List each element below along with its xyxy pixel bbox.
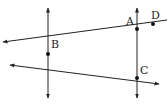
lines-layer <box>3 8 167 98</box>
line-B-A-D <box>3 20 167 42</box>
points-layer: BADC <box>46 9 160 80</box>
point-label-b: B <box>51 38 59 51</box>
diagram-svg: BADC <box>0 0 168 104</box>
point-c <box>135 76 139 80</box>
point-label-d: D <box>151 9 160 22</box>
point-label-a: A <box>125 15 135 28</box>
point-label-c: C <box>140 64 148 77</box>
point-a <box>135 27 139 31</box>
point-b <box>46 52 50 56</box>
point-d <box>151 22 155 26</box>
geometry-diagram: BADC <box>0 0 168 104</box>
